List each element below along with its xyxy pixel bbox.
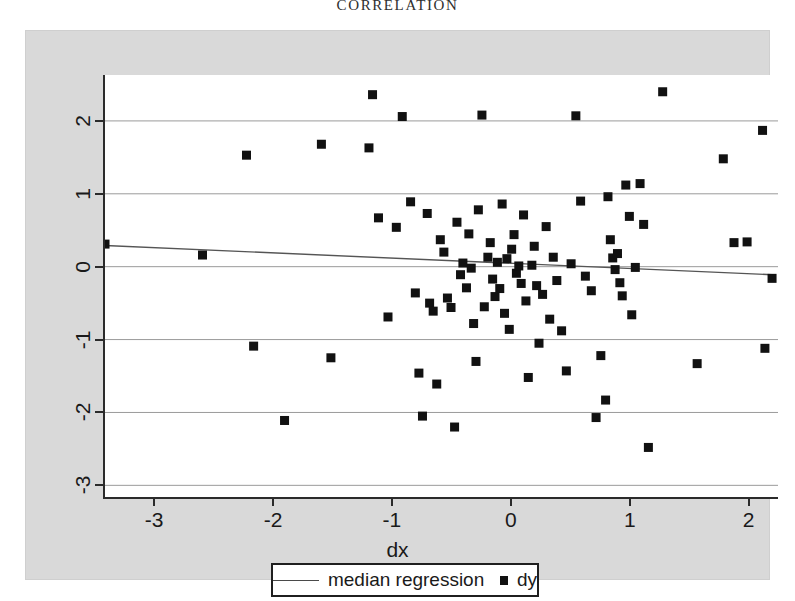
data-point	[392, 223, 401, 232]
data-point	[758, 126, 767, 135]
y-tick-mark	[95, 411, 103, 413]
y-tick-mark	[95, 484, 103, 486]
data-point	[621, 181, 630, 190]
data-point	[545, 315, 554, 324]
data-point	[639, 220, 648, 229]
data-point	[576, 197, 585, 206]
data-point	[398, 112, 407, 121]
y-tick-mark	[95, 193, 103, 195]
y-tick-label: -3	[71, 465, 95, 505]
data-point	[500, 309, 509, 318]
data-point	[552, 276, 561, 285]
data-point	[491, 292, 500, 301]
y-tick-label: 1	[71, 174, 95, 214]
data-point	[538, 290, 547, 299]
data-point	[418, 412, 427, 421]
data-point	[719, 154, 728, 163]
data-point	[517, 279, 526, 288]
regression-line	[105, 246, 772, 275]
legend-label-regression: median regression	[328, 569, 484, 591]
dy-marker-swatch	[500, 576, 508, 585]
data-point	[613, 249, 622, 258]
y-tick-mark	[95, 339, 103, 341]
data-point	[581, 272, 590, 281]
data-point	[611, 265, 620, 274]
data-point	[406, 197, 415, 206]
data-point	[425, 299, 434, 308]
data-point	[452, 218, 461, 227]
x-axis-title: dx	[25, 538, 770, 562]
data-point	[625, 212, 634, 221]
plot-area	[103, 75, 778, 499]
data-point	[535, 339, 544, 348]
data-point	[450, 423, 459, 432]
median-regression-line	[105, 246, 772, 275]
x-tick-mark	[629, 497, 631, 506]
data-point	[601, 396, 610, 405]
data-point	[530, 242, 539, 251]
data-point	[105, 240, 110, 249]
data-point	[502, 254, 511, 263]
data-point	[464, 229, 473, 238]
data-point	[469, 319, 478, 328]
data-point	[242, 151, 251, 160]
data-point	[693, 359, 702, 368]
x-tick-label: -2	[248, 508, 298, 532]
figure-panel: 210-1-2-3 -3-2-1012 dx median regression…	[25, 30, 770, 580]
data-point	[480, 302, 489, 311]
data-point	[527, 261, 536, 270]
data-point	[374, 213, 383, 222]
data-point	[280, 416, 289, 425]
x-tick-mark	[510, 497, 512, 506]
x-tick-label: -1	[367, 508, 417, 532]
data-point	[658, 87, 667, 96]
x-tick-label: -3	[129, 508, 179, 532]
data-point	[423, 209, 432, 218]
data-point	[483, 253, 492, 262]
x-tick-label: 1	[605, 508, 655, 532]
data-point	[249, 342, 258, 351]
data-point	[326, 353, 335, 362]
data-point	[462, 283, 471, 292]
data-point	[606, 235, 615, 244]
data-point	[467, 264, 476, 273]
data-point	[498, 200, 507, 209]
data-point	[549, 253, 558, 262]
data-point	[514, 261, 523, 270]
data-point	[429, 307, 438, 316]
x-tick-mark	[748, 497, 750, 506]
y-tick-label: -1	[71, 320, 95, 360]
data-point	[596, 351, 605, 360]
x-tick-mark	[153, 497, 155, 506]
y-tick-label: -2	[71, 392, 95, 432]
data-point	[198, 251, 207, 260]
data-point	[495, 284, 504, 293]
scatter-plot-canvas	[105, 75, 778, 497]
data-point	[521, 296, 530, 305]
data-point	[644, 443, 653, 452]
data-point	[760, 344, 769, 353]
data-point	[618, 291, 627, 300]
data-point	[567, 259, 576, 268]
data-point	[768, 274, 777, 283]
data-point	[439, 248, 448, 257]
y-tick-mark	[95, 120, 103, 122]
data-point	[743, 237, 752, 246]
data-point	[507, 245, 516, 254]
data-point	[364, 143, 373, 152]
data-point	[317, 140, 326, 149]
x-tick-label: 0	[486, 508, 536, 532]
data-point	[730, 238, 739, 247]
x-tick-mark	[391, 497, 393, 506]
data-point	[411, 288, 420, 297]
gridlines	[105, 121, 778, 485]
data-point	[456, 270, 465, 279]
data-point	[505, 325, 514, 334]
data-point	[587, 286, 596, 295]
data-point	[443, 294, 452, 303]
data-point	[562, 366, 571, 375]
data-point	[627, 310, 636, 319]
data-point	[542, 222, 551, 231]
x-tick-label: 2	[724, 508, 774, 532]
data-point	[383, 312, 392, 321]
